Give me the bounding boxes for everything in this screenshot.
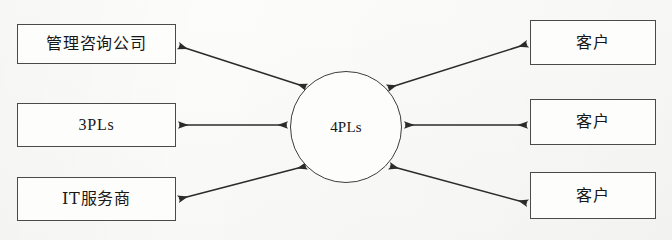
edge-hub-customer-top: [388, 44, 527, 88]
node-label: 客户: [576, 114, 610, 130]
node-customer-top[interactable]: 客户: [530, 20, 656, 65]
edge-consulting-hub: [179, 46, 306, 87]
node-consulting-company[interactable]: 管理咨询公司: [17, 24, 176, 64]
node-label: 客户: [576, 188, 610, 204]
node-label: 客户: [576, 35, 610, 51]
edge-hub-customer-bottom: [390, 166, 527, 203]
diagram-canvas: 管理咨询公司 3PLs IT服务商 4PLs 客户 客户 客户: [0, 0, 672, 240]
node-customer-middle[interactable]: 客户: [530, 99, 656, 145]
edge-itservice-hub: [179, 166, 306, 199]
node-label: 管理咨询公司: [46, 36, 147, 52]
node-customer-bottom[interactable]: 客户: [530, 172, 656, 219]
node-it-service-provider[interactable]: IT服务商: [17, 177, 176, 221]
node-3pls[interactable]: 3PLs: [17, 103, 176, 147]
node-label: 4PLs: [330, 119, 362, 136]
node-label: IT服务商: [62, 191, 131, 207]
node-label: 3PLs: [78, 117, 114, 133]
node-4pls-hub[interactable]: 4PLs: [290, 71, 402, 183]
